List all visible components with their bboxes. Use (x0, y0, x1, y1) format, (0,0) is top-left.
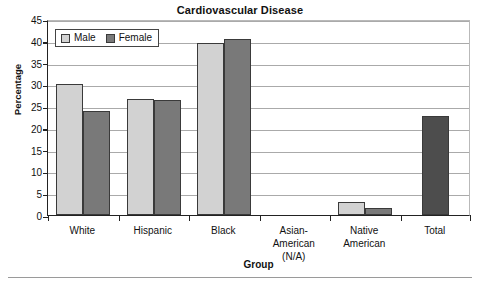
bar-total (422, 116, 449, 215)
legend-label-male: Male (74, 33, 96, 43)
x-axis-tick-mark (189, 215, 190, 221)
chart-legend: Male Female (55, 29, 159, 47)
x-axis-tick-mark (401, 215, 402, 221)
bar-female (154, 100, 181, 215)
chart-title: Cardiovascular Disease (0, 4, 480, 16)
x-axis-label: Hispanic (118, 224, 189, 237)
x-axis-label-line1: White (69, 225, 95, 236)
plot-area: 051015202530354045 (47, 20, 470, 216)
bottom-divider (8, 277, 472, 278)
legend-item-male[interactable]: Male (61, 33, 96, 43)
x-axis-label-line2: American (329, 237, 400, 250)
x-axis-tick-mark (470, 215, 471, 221)
bar-male (197, 43, 224, 215)
x-axis-label-line1: Asian-American (273, 225, 315, 249)
bar-female (224, 39, 251, 215)
y-axis-title: Percentage (12, 35, 23, 145)
x-axis-label: Black (188, 224, 259, 237)
x-axis-label-line1: Total (424, 225, 445, 236)
x-axis-label: White (47, 224, 118, 237)
x-axis-label: Total (400, 224, 471, 237)
legend-item-female[interactable]: Female (106, 33, 152, 43)
legend-swatch-male (61, 34, 70, 43)
chart-page: Cardiovascular Disease Percentage 051015… (0, 0, 480, 286)
bar-female (83, 111, 110, 215)
x-axis-tick-mark (330, 215, 331, 221)
x-axis-label: NativeAmerican (329, 224, 400, 250)
x-axis-label: Asian-American(N/A) (259, 224, 330, 263)
bar-male (338, 202, 365, 215)
x-axis-label-line1: Native (350, 225, 378, 236)
bar-male (127, 99, 154, 215)
bars-layer (48, 21, 469, 215)
legend-swatch-female (106, 34, 115, 43)
legend-label-female: Female (119, 33, 152, 43)
x-axis-tick-mark (260, 215, 261, 221)
x-axis-tick-mark (48, 215, 49, 221)
x-axis-tick-mark (119, 215, 120, 221)
x-axis-title: Group (47, 259, 470, 270)
x-axis-label-line1: Hispanic (134, 225, 172, 236)
x-axis-label-line1: Black (211, 225, 235, 236)
bar-female (365, 208, 392, 215)
bar-male (56, 84, 83, 215)
